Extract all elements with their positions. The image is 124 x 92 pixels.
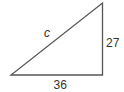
triangle-shape xyxy=(11,3,103,75)
vertical-leg-label: 27 xyxy=(106,36,120,50)
hypotenuse-label: c xyxy=(44,26,50,40)
horizontal-leg-label: 36 xyxy=(54,78,68,92)
right-triangle-diagram: c 27 36 xyxy=(0,0,124,92)
